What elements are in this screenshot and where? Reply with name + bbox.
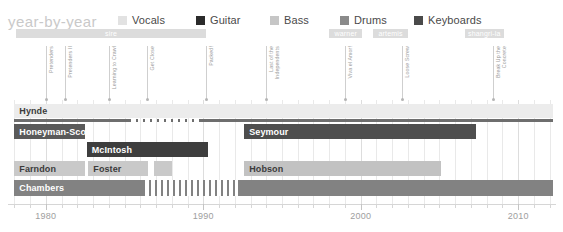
record-label-bar-shangri-la: shangri-la — [465, 29, 504, 38]
axis-tick — [518, 204, 519, 210]
album-marker-dot-icon — [265, 98, 268, 101]
album-label: Packed! — [208, 46, 215, 66]
year-by-year-timeline-chart: year-by-year VocalsGuitarBassDrumsKeyboa… — [0, 0, 563, 232]
member-name-seymour: Seymour — [249, 127, 288, 137]
axis-tick — [313, 204, 314, 208]
member-bar-seymour[interactable]: Seymour — [244, 124, 475, 139]
axis-tick — [46, 204, 47, 210]
axis-tick — [156, 204, 157, 208]
album-stem — [402, 46, 403, 100]
album-stem — [345, 46, 346, 100]
album-marker-dot-icon — [64, 98, 67, 101]
album-label: Pretenders II — [67, 46, 74, 78]
album-stem — [109, 46, 110, 100]
album-label: Loose Screw — [404, 46, 411, 78]
axis-tick — [408, 204, 409, 208]
album-stem — [493, 46, 494, 100]
album-label: Learning to Crawl — [111, 46, 118, 89]
member-name-hynde: Hynde — [19, 106, 47, 116]
member-name-foster: Foster — [93, 164, 121, 174]
axis-tick — [77, 204, 78, 208]
record-label-name: artemis — [378, 30, 402, 37]
album-stem — [46, 46, 47, 100]
axis-year-label: 2010 — [508, 211, 529, 221]
member-bar-foster[interactable]: Foster — [88, 161, 148, 176]
member-line-hynde — [129, 119, 200, 122]
axis-tick — [361, 204, 362, 210]
album-marker-dot-icon — [492, 98, 495, 101]
axis-tick — [550, 204, 551, 208]
member-bar-chambers[interactable]: Chambers — [14, 180, 143, 196]
member-line-hynde — [14, 119, 129, 122]
axis-tick — [282, 204, 283, 208]
axis-tick — [487, 204, 488, 208]
member-name-hobson: Hobson — [249, 164, 283, 174]
record-label-name: shangri-la — [468, 30, 501, 37]
album-label: Get Close — [149, 46, 156, 70]
member-bar-farndon[interactable]: Farndon — [14, 161, 85, 176]
record-label-bar-sire: sire — [16, 29, 207, 38]
album-marker-dot-icon — [401, 98, 404, 101]
axis-tick — [62, 204, 63, 208]
album-label: Concrete — [501, 46, 508, 68]
album-stem — [65, 46, 66, 100]
axis-year-label: 1990 — [193, 211, 214, 221]
record-label-bar-warner: warner — [329, 29, 362, 38]
record-label-name: sire — [105, 30, 117, 37]
album-stem — [147, 46, 148, 100]
axis-tick — [251, 204, 252, 208]
axis-tick — [392, 204, 393, 208]
album-marker-dot-icon — [344, 98, 347, 101]
member-name-chambers: Chambers — [19, 183, 64, 193]
axis-tick — [140, 204, 141, 208]
member-bar-foster[interactable] — [154, 161, 171, 176]
axis-tick — [345, 204, 346, 208]
album-label: Pretenders — [48, 46, 55, 73]
axis-tick — [455, 204, 456, 208]
axis-year-label: 1980 — [35, 211, 56, 221]
axis-tick — [376, 204, 377, 208]
axis-tick — [30, 204, 31, 208]
album-marker-dot-icon — [108, 98, 111, 101]
member-line-hynde — [200, 119, 553, 122]
record-label-bar-artemis: artemis — [373, 29, 408, 38]
axis-tick — [14, 204, 15, 208]
axis-tick — [534, 204, 535, 208]
member-name-honeyman-scott: Honeyman-Scott — [19, 127, 92, 137]
member-name-farndon: Farndon — [19, 164, 56, 174]
axis-tick — [109, 204, 110, 208]
album-label: Independents — [274, 46, 281, 79]
album-label: Viva el Amor! — [347, 46, 354, 78]
plot-area: sirewarnerartemisshangri-laPretendersPre… — [0, 0, 563, 232]
axis-tick — [235, 204, 236, 208]
axis-tick — [424, 204, 425, 208]
axis-tick — [471, 204, 472, 208]
axis-year-label: 2000 — [350, 211, 371, 221]
axis-tick — [439, 204, 440, 208]
axis-tick — [219, 204, 220, 208]
axis-tick — [203, 204, 204, 210]
axis-tick — [266, 204, 267, 208]
axis-tick — [298, 204, 299, 208]
member-striped-segment-chambers — [143, 180, 237, 196]
album-marker-dot-icon — [146, 98, 149, 101]
record-label-name: warner — [334, 30, 357, 37]
member-name-mcintosh: McIntosh — [92, 145, 132, 155]
member-bar-mcintosh[interactable]: McIntosh — [87, 142, 208, 157]
album-marker-dot-icon — [205, 98, 208, 101]
album-marker-dot-icon — [45, 98, 48, 101]
member-bar-hobson[interactable]: Hobson — [244, 161, 441, 176]
axis-tick — [125, 204, 126, 208]
axis-tick — [329, 204, 330, 208]
axis-tick — [188, 204, 189, 208]
member-bar-hynde[interactable]: Hynde — [14, 104, 553, 118]
member-bar-honeyman-scott[interactable]: Honeyman-Scott — [14, 124, 85, 139]
axis-tick — [502, 204, 503, 208]
axis-tick — [93, 204, 94, 208]
axis-tick — [172, 204, 173, 208]
member-bar-chambers[interactable] — [238, 180, 553, 196]
